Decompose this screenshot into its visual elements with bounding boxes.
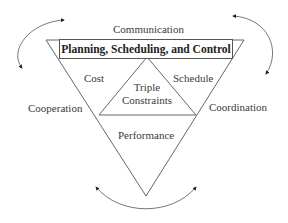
triple-constraints-line1: Triple — [112, 81, 182, 94]
triple-constraints-label: Triple Constraints — [112, 81, 182, 107]
label-coordination: Coordination — [209, 101, 267, 113]
triple-constraints-line2: Constraints — [112, 94, 182, 107]
curved-arrow-top-right — [233, 16, 273, 74]
planning-scheduling-control-banner: Planning, Scheduling, and Control — [59, 39, 233, 59]
label-cooperation: Cooperation — [28, 102, 82, 114]
curved-arrow-bottom — [96, 187, 196, 209]
label-communication: Communication — [113, 23, 184, 35]
curved-arrow-top-left — [18, 20, 64, 68]
outer-inverted-triangle — [46, 40, 244, 196]
label-cost: Cost — [84, 72, 104, 84]
label-performance: Performance — [118, 129, 174, 141]
